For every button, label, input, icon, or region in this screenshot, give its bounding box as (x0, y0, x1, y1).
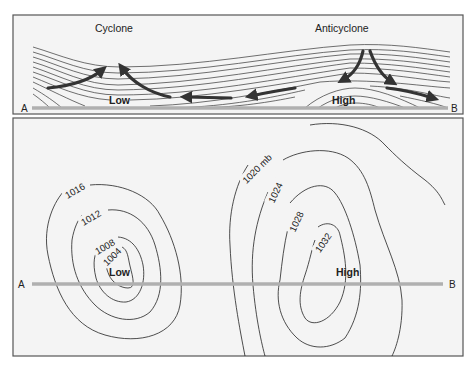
arrow-west-1-icon (186, 97, 231, 98)
cross-section-panel: Cyclone Anticyclone Low High A B (13, 15, 463, 114)
low-label: Low (109, 94, 131, 106)
low-center-label: Low (109, 266, 131, 278)
cyclone-title: Cyclone (95, 22, 133, 34)
map-point-a-label: A (18, 279, 25, 290)
high-label: High (332, 94, 355, 106)
diagram-canvas: Cyclone Anticyclone Low High A B 1 (0, 0, 475, 370)
map-view-panel: 1016 1012 1008 1004 1020 mb 1024 1028 10… (13, 118, 463, 356)
point-a-label: A (21, 103, 28, 114)
point-b-label: B (451, 103, 458, 114)
high-center-label: High (336, 266, 359, 278)
anticyclone-title: Anticyclone (315, 22, 369, 34)
map-point-b-label: B (449, 279, 456, 290)
